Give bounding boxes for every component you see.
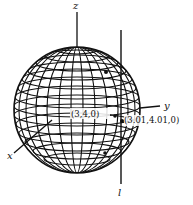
- sphere-diagram: z y x l (3,4,0): [0, 0, 193, 205]
- line-label: l: [118, 187, 121, 198]
- point-label-3-4-0: (3,4,0): [71, 109, 99, 119]
- y-axis-label: y: [163, 100, 170, 111]
- point-label-3.01-4.01-0: (3.01,4.01,0): [124, 115, 179, 125]
- point-upper: [104, 70, 108, 74]
- point-3-4-0: [113, 114, 117, 118]
- z-axis-label: z: [72, 0, 79, 11]
- y-axis: [140, 106, 160, 108]
- point-lower: [103, 151, 107, 155]
- x-axis-label: x: [7, 150, 13, 161]
